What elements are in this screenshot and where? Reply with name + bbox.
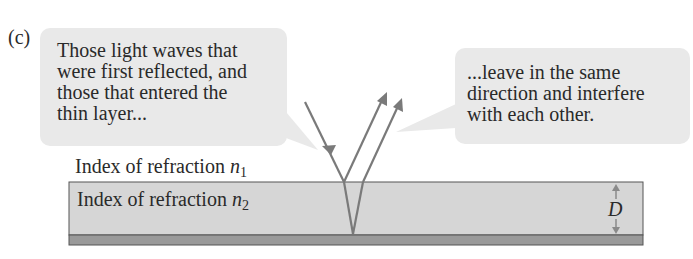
- transmitted-arrow-icon: [393, 98, 403, 112]
- medium-2-symbol: n: [232, 188, 242, 210]
- callout-line: were first reflected, and: [57, 61, 247, 82]
- right-callout-text: ...leave in the same direction and inter…: [467, 62, 645, 125]
- thickness-label: D: [608, 198, 622, 221]
- left-callout: Those light waves that were first reflec…: [40, 28, 287, 146]
- medium-2-text: Index of refraction: [77, 188, 227, 210]
- callout-line: thin layer...: [57, 103, 247, 124]
- panel-label: (c): [8, 26, 30, 49]
- callout-line: Those light waves that: [57, 40, 247, 61]
- reflected-ray: [344, 98, 383, 182]
- right-callout-tail: [396, 104, 456, 132]
- callout-line: ...leave in the same: [467, 62, 645, 83]
- medium-1-label: Index of refraction n1: [75, 155, 247, 181]
- reflected-arrow-icon: [377, 92, 387, 106]
- callout-line: with each other.: [467, 104, 645, 125]
- medium-2-subscript: 2: [242, 198, 249, 213]
- medium-1-symbol: n: [230, 155, 240, 177]
- left-callout-text: Those light waves that were first reflec…: [57, 40, 247, 124]
- callout-line: those that entered the: [57, 82, 247, 103]
- medium-1-subscript: 1: [240, 165, 247, 180]
- medium-1-text: Index of refraction: [75, 155, 225, 177]
- right-callout: ...leave in the same direction and inter…: [455, 48, 690, 144]
- medium-2-label: Index of refraction n2: [77, 188, 249, 214]
- transmitted-ray: [363, 104, 399, 182]
- substrate: [69, 235, 643, 245]
- callout-line: direction and interfere: [467, 83, 645, 104]
